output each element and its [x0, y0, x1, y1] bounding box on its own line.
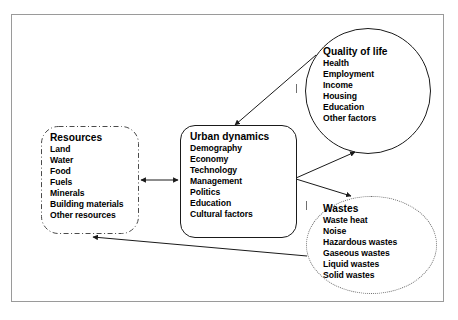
quality-item-employment: Employment — [323, 69, 388, 80]
quality-item-housing: Housing — [323, 91, 388, 102]
quality-item-education: Education — [323, 102, 388, 113]
resources-item-water: Water — [50, 155, 124, 166]
resources-title: Resources — [50, 131, 124, 144]
diagram-canvas: Resources Land Water Food Fuels Minerals… — [0, 0, 458, 320]
resources-item-land: Land — [50, 144, 124, 155]
quality-item-income: Income — [323, 80, 388, 91]
quality-tick-mark — [296, 84, 297, 93]
resources-item-other-resources: Other resources — [50, 210, 124, 221]
edge-wastes-to-resources — [93, 237, 307, 256]
wastes-item-noise: Noise — [323, 226, 397, 237]
quality-of-life-node[interactable]: Quality of life Health Employment Income… — [323, 45, 388, 124]
urban-dynamics-node[interactable]: Urban dynamics Demography Economy Techno… — [190, 130, 269, 220]
urban-item-economy: Economy — [190, 154, 269, 165]
resources-item-minerals: Minerals — [50, 188, 124, 199]
edge-urban-to-quality — [296, 152, 355, 178]
edge-urban-to-wastes — [296, 179, 351, 196]
urban-item-management: Management — [190, 176, 269, 187]
quality-of-life-title: Quality of life — [323, 45, 388, 58]
wastes-node[interactable]: Wastes Waste heat Noise Hazardous wastes… — [323, 202, 397, 281]
wastes-item-gaseous-wastes: Gaseous wastes — [323, 248, 397, 259]
resources-item-food: Food — [50, 166, 124, 177]
resources-item-fuels: Fuels — [50, 177, 124, 188]
urban-item-demography: Demography — [190, 143, 269, 154]
quality-item-health: Health — [323, 58, 388, 69]
wastes-item-hazardous-wastes: Hazardous wastes — [323, 237, 397, 248]
quality-item-other-factors: Other factors — [323, 113, 388, 124]
wastes-tick-mark — [306, 201, 307, 210]
urban-item-technology: Technology — [190, 165, 269, 176]
wastes-title: Wastes — [323, 202, 397, 215]
edge-quality-to-urban — [235, 55, 316, 125]
urban-dynamics-title: Urban dynamics — [190, 130, 269, 143]
wastes-item-waste-heat: Waste heat — [323, 215, 397, 226]
resources-node[interactable]: Resources Land Water Food Fuels Minerals… — [50, 131, 124, 221]
wastes-item-solid-wastes: Solid wastes — [323, 270, 397, 281]
resources-item-building-materials: Building materials — [50, 199, 124, 210]
urban-item-politics: Politics — [190, 187, 269, 198]
urban-item-cultural-factors: Cultural factors — [190, 209, 269, 220]
urban-item-education: Education — [190, 198, 269, 209]
wastes-item-liquid-wastes: Liquid wastes — [323, 259, 397, 270]
